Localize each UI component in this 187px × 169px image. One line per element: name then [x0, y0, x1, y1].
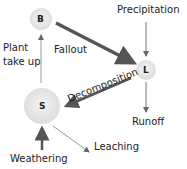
- node-l-label: L: [143, 64, 149, 76]
- node-b-label: B: [37, 13, 44, 25]
- fallout-arrow: [56, 23, 134, 63]
- node-s-label: S: [39, 100, 45, 112]
- leaching-label: Leaching: [94, 141, 139, 153]
- leaching-arrow: [53, 126, 89, 152]
- weathering-label: Weathering: [10, 153, 68, 165]
- fallout-label: Fallout: [54, 44, 87, 56]
- plant-take-up-label-line1: Plant: [3, 42, 28, 54]
- runoff-label: Runoff: [132, 116, 164, 128]
- plant-take-up-label-line2: take up: [3, 56, 41, 68]
- precipitation-label: Precipitation: [117, 4, 180, 16]
